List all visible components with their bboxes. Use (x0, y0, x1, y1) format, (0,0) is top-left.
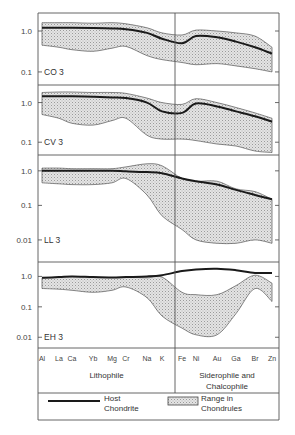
legend-host-label: Host (104, 394, 121, 403)
legend-range-label: Chondrules (201, 404, 242, 413)
x-tick-label: Cr (122, 355, 130, 362)
panel-label: EH 3 (44, 332, 63, 342)
y-tick-label: 1.0 (21, 99, 33, 108)
x-tick-label: La (55, 355, 63, 362)
y-tick-label: 0.1 (21, 68, 33, 77)
x-tick-label: Mg (107, 355, 117, 363)
y-tick-label: 0.1 (21, 303, 33, 312)
x-tick-label: Ni (193, 355, 200, 362)
x-tick-label: Yb (89, 355, 98, 362)
y-tick-label: 1.0 (21, 27, 33, 36)
x-tick-label: Br (252, 355, 260, 362)
x-tick-label: Au (213, 355, 222, 362)
y-tick-label: 0.01 (16, 333, 32, 342)
group-label-siderophile: Siderophile and (199, 371, 255, 380)
x-tick-label: Fe (178, 355, 186, 362)
x-tick-label: Zn (268, 355, 276, 362)
legend-range-swatch (168, 397, 198, 405)
x-tick-label: Na (143, 355, 152, 362)
y-tick-label: 0.01 (16, 236, 32, 245)
panel-label: LL 3 (44, 235, 61, 245)
panel-label: CO 3 (44, 67, 64, 77)
x-tick-label: Al (39, 355, 46, 362)
panel-cv-3: 1.00.1CV 3 (21, 92, 279, 153)
x-tick-label: K (160, 355, 165, 362)
chondrule-range-band (42, 23, 272, 72)
legend-host-label: Chondrite (104, 404, 139, 413)
group-label-lithophile: Lithophile (89, 371, 124, 380)
chondrule-range-band (42, 164, 272, 244)
panel-label: CV 3 (44, 137, 63, 147)
panel-co-3: 1.00.1CO 3 (21, 23, 279, 77)
chondrule-chart: 1.00.1CO 31.00.1CV 31.00.10.01LL 31.00.1… (0, 0, 295, 435)
chondrule-range-band (42, 92, 272, 153)
panel-eh-3: 1.00.10.01EH 3 (16, 269, 279, 343)
y-tick-label: 1.0 (21, 167, 33, 176)
legend-range-label: Range in (201, 394, 233, 403)
y-tick-label: 0.1 (21, 138, 33, 147)
y-tick-label: 0.1 (21, 201, 33, 210)
y-tick-label: 1.0 (21, 272, 33, 281)
chondrule-range-band (42, 275, 272, 337)
panel-ll-3: 1.00.10.01LL 3 (16, 164, 279, 245)
x-tick-label: Ga (231, 355, 240, 362)
group-label-siderophile: Chalcophile (206, 382, 248, 391)
x-tick-label: Ca (68, 355, 77, 362)
host-chondrite-line (42, 269, 272, 278)
